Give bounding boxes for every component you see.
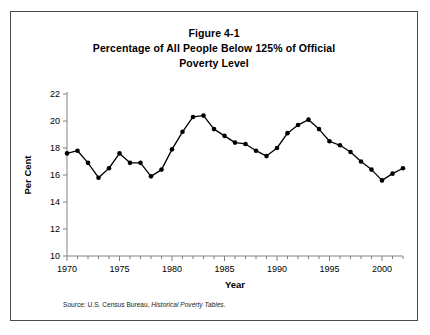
data-point <box>369 167 374 172</box>
data-point <box>348 150 353 155</box>
data-point <box>149 174 154 179</box>
data-point <box>222 134 227 139</box>
x-axis: 1970197519801985199019952000 <box>57 256 403 274</box>
x-tick-label: 1970 <box>57 264 77 274</box>
data-point <box>107 166 112 171</box>
x-tick-label: 1985 <box>214 264 234 274</box>
source-note: Source: U.S. Census Bureau, Historical P… <box>63 301 226 308</box>
y-tick-label: 12 <box>50 224 60 234</box>
data-point <box>338 143 343 148</box>
data-point <box>96 175 101 180</box>
figure-frame: Figure 4-1 Percentage of All People Belo… <box>10 11 418 321</box>
data-point <box>306 117 311 122</box>
x-tick-label: 1990 <box>267 264 287 274</box>
source-prefix: Source: U.S. Census Bureau, <box>63 301 150 308</box>
chart-svg: 10121416182022 1970197519801985199019952… <box>11 12 419 322</box>
data-point <box>390 171 395 176</box>
data-point <box>159 167 164 172</box>
data-point <box>296 123 301 128</box>
data-point <box>86 161 91 166</box>
data-point <box>75 148 80 153</box>
data-point <box>128 161 133 166</box>
data-point <box>401 166 406 171</box>
data-point <box>254 148 259 153</box>
y-tick-label: 14 <box>50 197 60 207</box>
data-point <box>264 154 269 159</box>
y-tick-label: 16 <box>50 170 60 180</box>
y-axis: 10121416182022 <box>50 89 67 261</box>
data-point <box>359 159 364 164</box>
data-point <box>138 161 143 166</box>
y-tick-label: 18 <box>50 143 60 153</box>
y-tick-label: 10 <box>50 251 60 261</box>
data-point <box>212 127 217 132</box>
data-point <box>327 139 332 144</box>
data-point <box>233 140 238 145</box>
source-suffix: . <box>224 301 226 308</box>
y-tick-label: 20 <box>50 116 60 126</box>
x-tick-label: 1975 <box>109 264 129 274</box>
data-point <box>380 178 385 183</box>
data-point <box>317 127 322 132</box>
data-point <box>170 147 175 152</box>
data-point <box>285 131 290 136</box>
data-point <box>275 146 280 151</box>
x-tick-label: 1995 <box>319 264 339 274</box>
data-point <box>201 113 206 118</box>
data-point <box>191 115 196 120</box>
data-point <box>180 130 185 135</box>
data-point <box>65 151 70 156</box>
data-point <box>117 151 122 156</box>
data-series-poverty-rate <box>65 113 406 182</box>
x-tick-label: 1980 <box>162 264 182 274</box>
x-tick-label: 2000 <box>372 264 392 274</box>
source-publication-title: Historical Poverty Tables <box>151 301 223 308</box>
y-axis-title: Per Cent <box>22 155 33 195</box>
data-point <box>243 142 248 147</box>
line-chart: 10121416182022 1970197519801985199019952… <box>11 12 419 322</box>
x-axis-title: Year <box>225 279 245 290</box>
y-tick-label: 22 <box>50 89 60 99</box>
